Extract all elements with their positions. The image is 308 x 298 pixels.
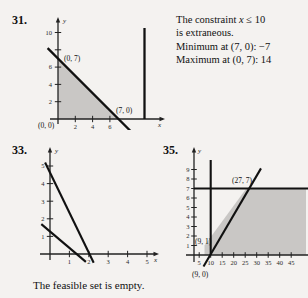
y-tick-label-35-2: 3	[186, 223, 189, 230]
x-tick-label-33-2: 3	[107, 258, 110, 265]
chart-33: 1 2 3 4 5 1 2 3 4 5 y x	[30, 142, 160, 267]
x-tick-label-33-0: 1	[68, 258, 71, 265]
x-tick-label-35-3: 20	[230, 259, 237, 266]
chart-31: 2 4 6 10 2 4 6 y x (0, 7) (7, 0) (0, 0)	[30, 12, 165, 130]
x-tick-label-35-4: 25	[242, 259, 249, 266]
y-tick-label-33-3: 4	[41, 180, 45, 187]
y-axis-name-35: y	[197, 147, 202, 155]
y-axis-arrow-icon-35	[192, 147, 196, 153]
y-tick-label-35-6: 7	[186, 185, 190, 192]
y-tick-label-35-4: 5	[186, 204, 189, 211]
chart-35: 1 2 3 4 5 6 7 8 9 5 10 15 20 25 30	[186, 142, 308, 282]
x-tick-label-35-6: 35	[265, 259, 272, 266]
x-tick-label-35-7: 40	[276, 259, 283, 266]
x-tick-label-31-1: 4	[91, 123, 95, 130]
y-tick-label-35-5: 6	[186, 194, 190, 201]
answer-line-3: Minimum at (7, 0): −7	[176, 40, 271, 53]
y-tick-label-31-4: 10	[46, 29, 53, 36]
x-tick-label-33-4: 5	[145, 258, 148, 265]
y-tick-label-35-8: 9	[186, 166, 189, 173]
problem-number-33: 33.	[12, 143, 27, 158]
y-tick-label-31-1: 4	[49, 81, 53, 88]
y-tick-label-35-3: 4	[186, 213, 190, 220]
x-tick-label-35-2: 15	[219, 259, 226, 266]
y-axis-arrow-icon-33	[48, 147, 52, 153]
y-tick-label-33-2: 3	[41, 198, 44, 205]
answer-text-block: The constraint x ≤ 10 is extraneous. Min…	[176, 13, 271, 67]
x-tick-label-35-0: 5	[198, 259, 201, 266]
caption-33: The feasible set is empty.	[33, 279, 144, 291]
y-axis-name-33: y	[54, 147, 59, 155]
problem-number-31: 31.	[12, 13, 27, 28]
x-tick-label-35-8: 45	[288, 259, 295, 266]
point-label-35-27-7: (27, 7)	[232, 176, 252, 185]
y-tick-label-33-4: 5	[41, 162, 44, 169]
feasible-region-35	[205, 189, 307, 256]
x-tick-label-33-3: 4	[126, 258, 130, 265]
point-label-31-7-0: (7, 0)	[116, 106, 133, 115]
answer-line-4: Maximum at (0, 7): 14	[176, 53, 271, 66]
worksheet-page: 31. 2 4 6 10 2 4	[0, 0, 308, 298]
answer-line-1-suffix: ≤ 10	[244, 14, 266, 25]
x-tick-label-31-0: 2	[74, 123, 77, 130]
y-axis-arrow-icon-31	[56, 17, 60, 23]
answer-line-1: The constraint x ≤ 10	[176, 13, 271, 26]
answer-line-1-prefix: The constraint	[176, 14, 239, 25]
x-tick-label-35-5: 30	[253, 259, 260, 266]
y-tick-label-35-0: 1	[186, 242, 189, 249]
point-label-31-0-7: (0, 7)	[64, 54, 81, 63]
x-tick-label-33-1: 2	[87, 258, 90, 265]
y-tick-label-31-0: 2	[49, 98, 52, 105]
point-label-35-9-1: (9, 1)	[195, 237, 212, 246]
x-axis-name-31: x	[157, 121, 162, 129]
problem-number-35: 35.	[163, 143, 178, 158]
constraint-line-33-shallow	[41, 224, 86, 262]
y-tick-label-31-2: 6	[49, 63, 53, 70]
x-axis-name-33: x	[153, 256, 158, 264]
y-tick-label-33-1: 2	[41, 215, 44, 222]
point-label-31-0-0: (0, 0)	[38, 121, 55, 130]
point-label-35-9-0: (9, 0)	[192, 270, 209, 279]
x-tick-label-31-2: 6	[108, 123, 112, 130]
y-tick-label-33-0: 1	[41, 233, 44, 240]
y-tick-label-35-1: 2	[186, 232, 189, 239]
answer-line-2: is extraneous.	[176, 26, 271, 39]
y-axis-name-31: y	[62, 17, 67, 25]
y-tick-label-35-7: 8	[186, 175, 189, 182]
